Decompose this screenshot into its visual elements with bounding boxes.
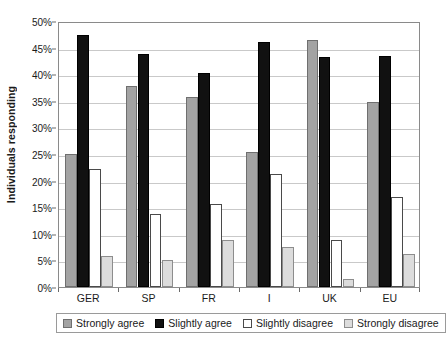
- bar-sp-slightly-disagree: [150, 214, 162, 287]
- bars-layer: [59, 23, 419, 287]
- bar-fr-slightly-disagree: [210, 204, 222, 287]
- bar-group-sp: [119, 23, 179, 287]
- legend-swatch-slightly-agree: [155, 319, 164, 328]
- legend-swatch-strongly-agree: [63, 319, 72, 328]
- y-axis-tick-label: 30%: [32, 123, 52, 134]
- y-axis-tick-mark: [52, 128, 56, 129]
- bar-i-strongly-disagree: [282, 247, 294, 287]
- bar-group-eu: [361, 23, 421, 287]
- legend-label-slightly-disagree: Slightly disagree: [256, 317, 333, 329]
- bar-group-ger: [59, 23, 119, 287]
- y-axis-tick-label: 10%: [32, 229, 52, 240]
- y-axis-tick-label: 25%: [32, 150, 52, 161]
- bar-uk-slightly-disagree: [331, 240, 343, 287]
- y-axis-tick-mark: [52, 22, 56, 23]
- x-axis-tick-label-fr: FR: [202, 292, 216, 304]
- bar-eu-slightly-agree: [379, 56, 391, 287]
- bar-sp-strongly-disagree: [162, 260, 174, 287]
- bar-uk-slightly-agree: [319, 57, 331, 287]
- y-axis-tick-mark: [52, 234, 56, 235]
- bar-eu-slightly-disagree: [391, 197, 403, 287]
- bar-ger-strongly-disagree: [101, 256, 113, 287]
- y-axis-title: Individuals responding: [0, 0, 22, 290]
- y-axis-tick-label: 40%: [32, 70, 52, 81]
- legend-item-strongly-disagree: Strongly disagree: [344, 317, 439, 329]
- x-axis-tick-label-eu: EU: [383, 292, 398, 304]
- x-axis-tick-labels: GERSPFRIUKEU: [58, 292, 420, 308]
- y-axis-tick-mark: [52, 155, 56, 156]
- y-axis-tick-mark: [52, 261, 56, 262]
- legend-item-strongly-agree: Strongly agree: [63, 317, 144, 329]
- y-axis-tick-mark: [52, 181, 56, 182]
- bar-sp-slightly-agree: [138, 54, 150, 287]
- legend-item-slightly-agree: Slightly agree: [155, 317, 232, 329]
- legend-swatch-slightly-disagree: [243, 319, 252, 328]
- y-axis-tick-mark: [52, 288, 56, 289]
- bar-fr-strongly-disagree: [222, 240, 234, 287]
- y-axis-tick-label: 20%: [32, 176, 52, 187]
- bar-eu-strongly-disagree: [403, 254, 415, 287]
- x-axis-tick-label-ger: GER: [77, 292, 100, 304]
- bar-group-uk: [300, 23, 360, 287]
- bar-group-fr: [180, 23, 240, 287]
- y-axis-tick-label: 50%: [32, 17, 52, 28]
- plot-area: [58, 22, 420, 288]
- bar-uk-strongly-disagree: [343, 279, 355, 287]
- bar-eu-strongly-agree: [367, 102, 379, 287]
- bar-ger-slightly-agree: [77, 35, 89, 287]
- y-axis-tick-label: 5%: [38, 256, 52, 267]
- bar-i-slightly-agree: [258, 42, 270, 287]
- y-axis-tick-mark: [52, 75, 56, 76]
- y-axis-tick-label: 35%: [32, 96, 52, 107]
- y-axis-tick-label: 15%: [32, 203, 52, 214]
- legend-label-slightly-agree: Slightly agree: [168, 317, 232, 329]
- bar-ger-slightly-disagree: [89, 169, 101, 287]
- legend-swatch-strongly-disagree: [344, 319, 353, 328]
- x-axis-tick-label-uk: UK: [322, 292, 337, 304]
- y-axis-tick-label: 0%: [38, 283, 52, 294]
- legend-label-strongly-disagree: Strongly disagree: [357, 317, 439, 329]
- legend-label-strongly-agree: Strongly agree: [76, 317, 144, 329]
- y-axis-tick-label: 45%: [32, 43, 52, 54]
- x-axis-tick-label-sp: SP: [141, 292, 155, 304]
- bar-fr-slightly-agree: [198, 73, 210, 287]
- y-axis-tick-mark: [52, 48, 56, 49]
- x-axis-tick-label-i: I: [268, 292, 271, 304]
- y-axis-title-label: Individuals responding: [5, 86, 17, 203]
- chart-legend: Strongly agreeSlightly agreeSlightly dis…: [56, 313, 446, 333]
- bar-fr-strongly-agree: [186, 97, 198, 287]
- y-axis-tick-labels: 0%5%10%15%20%25%30%35%40%45%50%: [20, 22, 56, 288]
- bar-uk-strongly-agree: [307, 40, 319, 287]
- bar-sp-strongly-agree: [126, 86, 138, 287]
- bar-ger-strongly-agree: [65, 154, 77, 287]
- bar-i-slightly-disagree: [270, 174, 282, 287]
- y-axis-tick-mark: [52, 208, 56, 209]
- legend-item-slightly-disagree: Slightly disagree: [243, 317, 333, 329]
- bar-group-i: [240, 23, 300, 287]
- y-axis-tick-mark: [52, 101, 56, 102]
- bar-i-strongly-agree: [246, 152, 258, 287]
